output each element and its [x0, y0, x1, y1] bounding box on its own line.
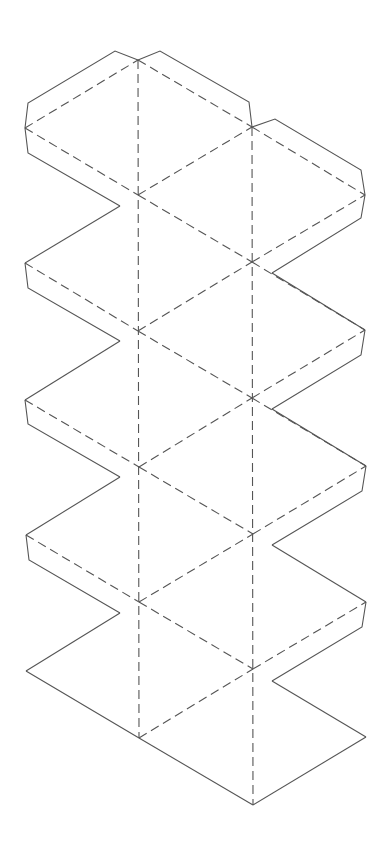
- outline-right-2: [272, 409, 366, 466]
- fold-row4-b: [139, 602, 253, 669]
- glue-flap-left-2: [25, 263, 120, 341]
- fold-row2-a: [25, 263, 138, 331]
- fold-row3-a: [25, 400, 139, 467]
- outline-right-3: [272, 545, 366, 602]
- fold-row1-b: [138, 195, 252, 262]
- fold-asc-4a: [139, 534, 253, 602]
- fold-asc-1b: [252, 195, 365, 262]
- fold-asc-3b: [253, 466, 366, 534]
- outline-bottom-right: [253, 737, 366, 805]
- fold-top-left: [25, 60, 138, 128]
- outline-bottom-left: [26, 671, 139, 738]
- fold-vertical-right: [252, 127, 253, 805]
- outline-right-4: [272, 681, 366, 737]
- fold-asc-1a: [138, 127, 252, 195]
- glue-flap-left-3: [25, 400, 120, 477]
- outline-bottom-center: [139, 738, 253, 805]
- outline-left-1: [25, 206, 120, 263]
- cut-lines: [25, 51, 366, 805]
- outline-right-1: [272, 273, 365, 330]
- glue-flap-top-right: [138, 51, 252, 127]
- glue-flap-left-1: [25, 128, 120, 206]
- fold-asc-5a: [139, 669, 253, 738]
- fold-asc-2b: [252, 330, 365, 398]
- fold-asc-3a: [139, 398, 252, 467]
- fold-lines: [25, 60, 366, 805]
- glue-flap-right-1: [252, 119, 365, 273]
- outline-left-3: [26, 477, 120, 535]
- fold-asc-2a: [138, 262, 252, 331]
- outline-left-2: [25, 341, 120, 400]
- glue-flap-right-3: [272, 466, 366, 545]
- icosahedron-net-diagram: [0, 0, 389, 846]
- fold-row2-b: [138, 331, 252, 398]
- fold-row3-b: [139, 467, 253, 534]
- fold-vertical-left: [138, 60, 139, 738]
- outline-left-4: [26, 613, 120, 671]
- glue-flap-top-left: [25, 51, 138, 128]
- glue-flap-right-2: [272, 330, 365, 409]
- glue-flap-left-4: [26, 535, 120, 613]
- glue-flap-right-4: [272, 602, 366, 681]
- fold-right-flap-1: [252, 127, 365, 195]
